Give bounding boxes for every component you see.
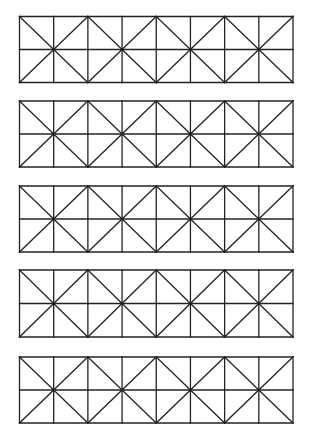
junction-dot [121,218,124,221]
junction-dot [52,302,55,305]
grid-block-2 [20,101,294,167]
junction-dot [189,389,192,392]
junction-dot [257,218,260,221]
junction-dot [121,302,124,305]
junction-dot [257,302,260,305]
junction-dot [257,389,260,392]
junction-dot [121,389,124,392]
junction-dot [52,48,55,51]
junction-dot [257,48,260,51]
junction-dot [189,218,192,221]
grid-block-4 [20,270,294,337]
junction-dot [52,218,55,221]
grid-block-5 [20,357,294,423]
junction-dot [189,133,192,136]
junction-dot [52,133,55,136]
junction-dot [189,302,192,305]
grid-block-1 [20,17,294,83]
junction-dot [257,133,260,136]
grid-block-3 [20,186,294,252]
junction-dot [52,389,55,392]
junction-dot [121,48,124,51]
junction-dot [189,48,192,51]
grid-pattern-sheet [0,0,314,444]
junction-dot [121,133,124,136]
